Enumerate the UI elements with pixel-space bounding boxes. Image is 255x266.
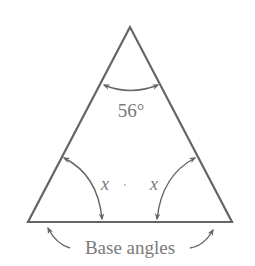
- caption-arrow-left: [48, 228, 70, 248]
- left-base-angle-arc: [64, 158, 102, 219]
- right-base-angle-arc: [157, 158, 195, 219]
- center-dot: [124, 184, 126, 186]
- triangle-outline: [28, 27, 232, 222]
- apex-angle-label: 56°: [118, 100, 145, 121]
- left-base-angle-label: x: [100, 174, 109, 194]
- diagram-canvas: 56° x x Base angles: [0, 0, 255, 266]
- apex-angle-arc: [104, 85, 158, 91]
- caption-arrow-right: [190, 230, 213, 248]
- right-base-angle-label: x: [149, 174, 158, 194]
- isosceles-triangle-diagram: 56° x x Base angles: [0, 0, 255, 266]
- base-angles-caption: Base angles: [85, 237, 175, 258]
